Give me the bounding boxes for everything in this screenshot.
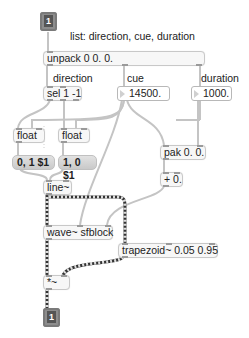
inlet-port[interactable] [81, 128, 87, 130]
float-left-object[interactable]: float [13, 128, 45, 143]
inlet-port[interactable] [163, 145, 169, 147]
outlet-port[interactable] [16, 141, 22, 143]
message-reverse[interactable]: 1, 0 $1 [58, 155, 97, 170]
float-right-label: float [62, 129, 82, 141]
outlet-port[interactable] [196, 64, 202, 66]
inlet-port[interactable] [63, 180, 69, 182]
inlet-port[interactable] [46, 275, 52, 277]
inlet-box[interactable]: 1 [40, 12, 57, 31]
inlet-port[interactable] [209, 243, 215, 245]
float-left-label: float [17, 129, 37, 141]
inlet-port[interactable] [163, 172, 169, 174]
inlet-port[interactable] [122, 243, 128, 245]
multiply-label: *~ [47, 276, 57, 288]
outlet-port[interactable] [61, 141, 67, 143]
inlet-port[interactable] [166, 243, 172, 245]
inlet-port[interactable] [61, 128, 67, 130]
sel-label: sel 1 -1 [47, 87, 81, 99]
comment-cue: cue [127, 72, 144, 84]
duration-number-box[interactable]: 1000. [191, 86, 232, 101]
comment-direction: direction [53, 72, 93, 84]
outlet-port[interactable] [60, 99, 66, 101]
inlet-port[interactable] [77, 225, 83, 227]
patcher-canvas[interactable]: 1 list: direction, cue, duration unpack … [0, 0, 249, 338]
multiply-object[interactable]: *~ [43, 275, 70, 290]
plus-label: + 0. [164, 173, 182, 185]
sel-object[interactable]: sel 1 -1 [43, 86, 82, 101]
unpack-object[interactable]: unpack 0 0. 0. [43, 51, 205, 66]
unpack-label: unpack 0 0. 0. [47, 52, 113, 64]
wave-label: wave~ sfblock [47, 226, 113, 238]
cue-number-box[interactable]: 14500. [117, 86, 170, 101]
line-label: line~ [47, 181, 69, 193]
plus-object[interactable]: + 0. [160, 172, 183, 187]
inlet-port[interactable] [61, 275, 67, 277]
inlet-port[interactable] [60, 86, 66, 88]
outlet-port[interactable] [122, 64, 128, 66]
inlet-port[interactable] [47, 51, 53, 53]
outlet-port[interactable] [163, 158, 169, 160]
outlet-port[interactable] [46, 238, 52, 240]
outlet-port[interactable] [46, 193, 52, 195]
inlet-port[interactable] [174, 172, 180, 174]
outlet-box[interactable]: 1 [43, 308, 60, 327]
number-triangle-icon [194, 90, 199, 98]
inlet-port[interactable] [105, 225, 111, 227]
trapezoid-object[interactable]: trapezoid~ 0.05 0.95 [118, 243, 218, 258]
outlet-port[interactable] [122, 256, 128, 258]
outlet-index: 1 [47, 311, 56, 323]
inlet-port[interactable] [46, 225, 52, 227]
comment-duration: duration [201, 72, 239, 84]
number-triangle-icon [120, 90, 125, 98]
pak-label: pak 0. 0. [164, 146, 204, 158]
outlet-port[interactable] [47, 64, 53, 66]
outlet-port[interactable] [73, 99, 79, 101]
message-forward[interactable]: 0, 1 $1 [12, 155, 55, 170]
outlet-port[interactable] [46, 288, 52, 290]
inlet-index: 1 [44, 15, 53, 27]
inlet-port[interactable] [16, 128, 22, 130]
outlet-port[interactable] [47, 99, 53, 101]
inlet-port[interactable] [36, 128, 42, 130]
wave-object[interactable]: wave~ sfblock [43, 225, 113, 240]
outlet-port[interactable] [163, 185, 169, 187]
inlet-port[interactable] [47, 86, 53, 88]
line-object[interactable]: line~ [43, 180, 72, 195]
float-right-object[interactable]: float [58, 128, 90, 143]
trapezoid-label: trapezoid~ 0.05 0.95 [122, 244, 218, 256]
inlet-port[interactable] [46, 180, 52, 182]
pak-object[interactable]: pak 0. 0. [160, 145, 206, 160]
inlet-port[interactable] [197, 145, 203, 147]
comment-list: list: direction, cue, duration [70, 30, 195, 42]
duration-value: 1000. [203, 87, 229, 99]
cue-value: 14500. [129, 87, 161, 99]
message-forward-label: 0, 1 $1 [17, 156, 49, 168]
